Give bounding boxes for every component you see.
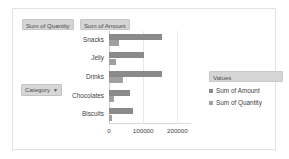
bar-amount[interactable] <box>109 71 162 77</box>
legend-item-label: Sum of Amount <box>216 87 260 94</box>
category-filter-button[interactable]: Category ▼ <box>21 84 62 96</box>
bar-quantity[interactable] <box>109 40 119 46</box>
x-axis-tick-label: 100000 <box>133 127 154 134</box>
legend-swatch-icon <box>209 89 213 93</box>
bar-amount[interactable] <box>109 108 133 114</box>
plot-area: 0100000200000SnacksJellyDrinksChocolates… <box>109 31 191 124</box>
category-filter-label: Category <box>25 84 50 96</box>
legend-title-button[interactable]: Values <box>209 71 283 82</box>
bar-group: Snacks <box>109 31 191 50</box>
bar-group: Drinks <box>109 68 191 87</box>
x-axis-tick-label: 0 <box>107 127 110 134</box>
legend-item[interactable]: Sum of Amount <box>209 87 283 94</box>
bar-group: Biscuits <box>109 105 191 124</box>
bar-quantity[interactable] <box>109 59 116 65</box>
chevron-down-icon: ▼ <box>53 87 58 92</box>
bar-quantity[interactable] <box>109 77 123 83</box>
bar-quantity[interactable] <box>109 115 112 121</box>
legend: Values Sum of AmountSum of Quantity <box>209 71 283 106</box>
bar-group: Jelly <box>109 50 191 69</box>
category-axis-label: Jelly <box>91 54 104 62</box>
legend-swatch-icon <box>209 101 213 105</box>
field-button-sum-of-quantity[interactable]: Sum of Quantity <box>22 19 74 30</box>
bar-group: Chocolates <box>109 87 191 106</box>
legend-item-label: Sum of Quantity <box>216 99 262 106</box>
pivot-chart-frame: Sum of Quantity Sum of Amount Category ▼… <box>12 8 276 150</box>
category-axis-label: Drinks <box>86 73 104 81</box>
category-axis-label: Snacks <box>83 36 104 44</box>
category-axis-label: Chocolates <box>72 92 104 100</box>
category-axis-label: Biscuits <box>82 110 104 118</box>
bar-amount[interactable] <box>109 34 162 40</box>
bar-amount[interactable] <box>109 90 130 96</box>
legend-items: Sum of AmountSum of Quantity <box>209 87 283 106</box>
legend-item[interactable]: Sum of Quantity <box>209 99 283 106</box>
x-axis-tick-label: 200000 <box>167 127 188 134</box>
bar-quantity[interactable] <box>109 96 114 102</box>
field-button-sum-of-amount[interactable]: Sum of Amount <box>80 19 130 30</box>
bar-amount[interactable] <box>109 52 144 58</box>
